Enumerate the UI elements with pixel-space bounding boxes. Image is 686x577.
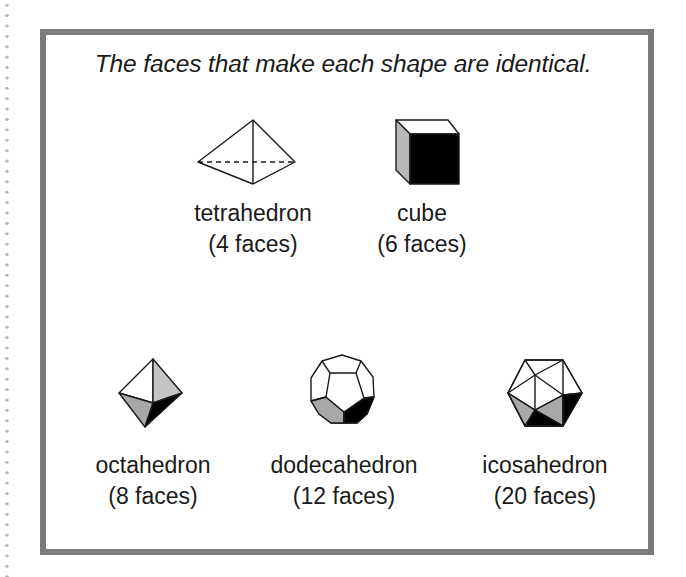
dodecahedron-icon: [302, 348, 388, 432]
octahedron-label: octahedron (8 faces): [43, 450, 263, 512]
cube-label: cube (6 faces): [312, 198, 532, 260]
icosahedron-label: icosahedron (20 faces): [435, 450, 655, 512]
dodecahedron-label: dodecahedron (12 faces): [234, 450, 454, 512]
tetrahedron-icon: [190, 110, 310, 195]
icosahedron-icon: [502, 352, 588, 432]
shape-name: icosahedron: [435, 450, 655, 481]
shape-face-count: (8 faces): [43, 481, 263, 512]
shape-name: dodecahedron: [234, 450, 454, 481]
dotted-margin-line: [5, 0, 9, 577]
shape-face-count: (6 faces): [312, 229, 532, 260]
diagram-title: The faces that make each shape are ident…: [0, 50, 686, 78]
octahedron-icon: [112, 352, 190, 434]
shape-face-count: (20 faces): [435, 481, 655, 512]
shape-name: cube: [312, 198, 532, 229]
cube-icon: [390, 114, 466, 190]
shape-face-count: (12 faces): [234, 481, 454, 512]
shape-name: octahedron: [43, 450, 263, 481]
